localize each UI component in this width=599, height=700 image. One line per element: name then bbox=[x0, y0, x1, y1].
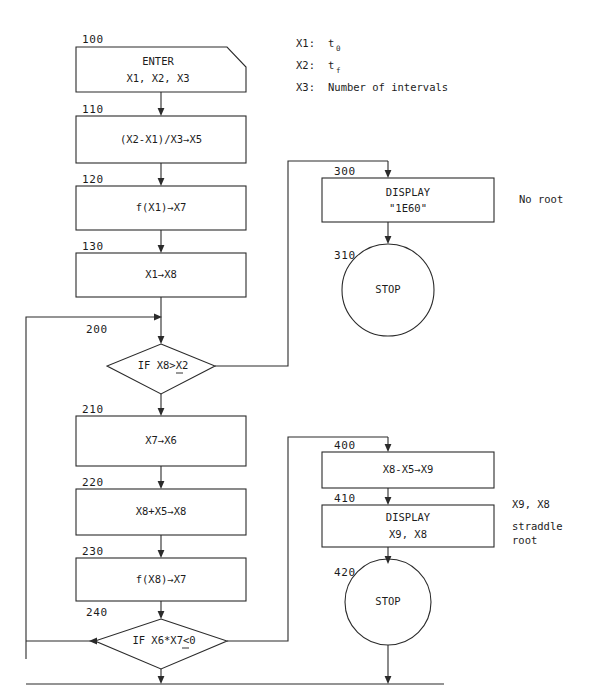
node-420-terminator[interactable]: 420 STOP bbox=[334, 559, 431, 645]
legend-value-2: Number of intervals bbox=[328, 81, 448, 93]
step-label-400: 400 bbox=[334, 439, 356, 452]
node-410-line2: X9, X8 bbox=[389, 528, 427, 540]
step-label-410: 410 bbox=[334, 492, 356, 505]
annotation-straddle-line2: straddle bbox=[512, 520, 563, 532]
node-200-decision[interactable]: 200 IF X8>X2 bbox=[86, 323, 215, 394]
arrowhead-240-bottom bbox=[158, 676, 165, 684]
node-310-terminator[interactable]: 310 STOP bbox=[334, 244, 434, 336]
arrowhead-110-to-120 bbox=[158, 178, 165, 186]
connector-200-to-300 bbox=[215, 161, 388, 366]
legend-subscript-1: f bbox=[336, 66, 341, 75]
legend-row-0: X1: t 0 bbox=[296, 37, 341, 53]
node-230-line1: f(X8)→X7 bbox=[136, 573, 187, 585]
arrowhead-230-to-240 bbox=[158, 611, 165, 619]
node-300-process[interactable]: 300 DISPLAY "1E60" bbox=[322, 165, 494, 222]
node-110-line1: (X2-X1)/X3→X5 bbox=[120, 133, 202, 145]
arrowhead-210-to-220 bbox=[158, 481, 165, 489]
node-100-shape bbox=[76, 47, 246, 92]
node-120-line1: f(X1)→X7 bbox=[136, 201, 187, 213]
legend-key-2: X3: bbox=[296, 81, 315, 93]
node-400-line1: X8-X5→X9 bbox=[383, 463, 434, 475]
node-300-line1: DISPLAY bbox=[386, 186, 431, 198]
flowchart-canvas: X1: t 0 X2: t f X3: Number of intervals bbox=[0, 0, 599, 700]
legend-row-1: X2: t f bbox=[296, 59, 341, 75]
step-label-120: 120 bbox=[82, 173, 104, 186]
node-240-decision[interactable]: 240 IF X6*X7<0 bbox=[86, 606, 227, 669]
node-210-line1: X7→X6 bbox=[145, 434, 177, 446]
step-label-200: 200 bbox=[86, 323, 108, 336]
arrowhead-300-to-310 bbox=[385, 236, 392, 244]
node-410-line1: DISPLAY bbox=[386, 511, 431, 523]
arrowhead-420-bottom bbox=[385, 676, 392, 684]
legend: X1: t 0 X2: t f X3: Number of intervals bbox=[296, 37, 448, 93]
annotation-straddle-line1: X9, X8 bbox=[512, 498, 550, 510]
step-label-240: 240 bbox=[86, 606, 108, 619]
annotation-no-root: No root bbox=[519, 193, 563, 205]
node-420-line1: STOP bbox=[375, 595, 400, 607]
arrowhead-200-to-210 bbox=[158, 408, 165, 416]
arrowhead-130-to-200 bbox=[158, 336, 165, 344]
arrowhead-400-to-410 bbox=[385, 497, 392, 505]
legend-value-1: t bbox=[328, 59, 334, 71]
step-label-230: 230 bbox=[82, 545, 104, 558]
legend-key-0: X1: bbox=[296, 37, 315, 49]
legend-row-2: X3: Number of intervals bbox=[296, 81, 448, 93]
arrowhead-240-to-400 bbox=[385, 444, 392, 452]
step-label-130: 130 bbox=[82, 240, 104, 253]
node-130-line1: X1→X8 bbox=[145, 268, 177, 280]
node-240-line1: IF X6*X7<0 bbox=[132, 634, 195, 646]
node-220-line1: X8+X5→X8 bbox=[136, 505, 187, 517]
legend-key-1: X2: bbox=[296, 59, 315, 71]
arrowhead-100-to-110 bbox=[158, 108, 165, 116]
node-300-line2: "1E60" bbox=[389, 202, 427, 214]
arrowhead-220-to-230 bbox=[158, 550, 165, 558]
node-100-line2: X1, X2, X3 bbox=[126, 72, 189, 84]
node-100-line1: ENTER bbox=[142, 55, 174, 67]
node-200-line1: IF X8>X2 bbox=[138, 359, 189, 371]
arrowhead-120-to-130 bbox=[158, 245, 165, 253]
step-label-220: 220 bbox=[82, 476, 104, 489]
node-410-process[interactable]: 410 DISPLAY X9, X8 bbox=[322, 492, 494, 547]
annotation-no-root-text: No root bbox=[519, 193, 563, 205]
step-label-300: 300 bbox=[334, 165, 356, 178]
step-label-100: 100 bbox=[82, 33, 104, 46]
node-310-line1: STOP bbox=[375, 283, 400, 295]
arrowhead-410-to-420 bbox=[385, 556, 392, 564]
node-100-enter[interactable]: 100 ENTER X1, X2, X3 bbox=[76, 33, 246, 92]
annotation-straddle-root: X9, X8 straddle root bbox=[512, 498, 563, 546]
connector-240-to-400 bbox=[227, 437, 388, 641]
node-400-process[interactable]: 400 X8-X5→X9 bbox=[322, 439, 494, 488]
step-label-110: 110 bbox=[82, 103, 104, 116]
annotation-straddle-line3: root bbox=[512, 534, 537, 546]
node-300-shape bbox=[322, 178, 494, 222]
arrowhead-200-to-300 bbox=[385, 170, 392, 178]
step-label-210: 210 bbox=[82, 403, 104, 416]
legend-value-0: t bbox=[328, 37, 334, 49]
legend-subscript-0: 0 bbox=[336, 44, 341, 53]
